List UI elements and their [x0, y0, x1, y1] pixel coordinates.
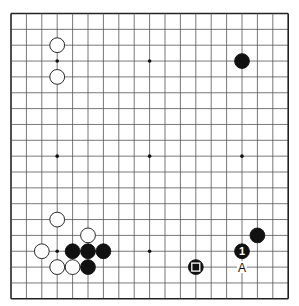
- black-stone: [235, 54, 250, 69]
- star-point: [148, 154, 152, 158]
- star-point: [55, 249, 59, 253]
- stone-body: [81, 244, 96, 259]
- black-stone: [65, 244, 80, 259]
- move-number-label: 1: [239, 245, 245, 257]
- black-stone: 1: [235, 244, 250, 259]
- white-stone: [34, 244, 49, 259]
- point-label-A: A: [238, 261, 246, 275]
- star-point: [55, 154, 59, 158]
- stone-body: [96, 244, 111, 259]
- go-board: A1: [0, 0, 299, 306]
- black-stone: [81, 244, 96, 259]
- black-stone: [188, 260, 203, 275]
- stone-body: [34, 244, 49, 259]
- black-stone: [96, 244, 111, 259]
- star-point: [55, 59, 59, 63]
- stone-body: [65, 244, 80, 259]
- stone-body: [50, 260, 65, 275]
- white-stone: [50, 212, 65, 227]
- stone-body: [188, 260, 203, 275]
- star-point: [148, 249, 152, 253]
- stone-body: [81, 228, 96, 243]
- star-point: [148, 59, 152, 63]
- black-stone: [250, 228, 265, 243]
- stone-body: [235, 54, 250, 69]
- stone-body: [50, 212, 65, 227]
- black-stone: [81, 260, 96, 275]
- white-stone: [50, 38, 65, 53]
- white-stone: [81, 228, 96, 243]
- stone-body: [50, 70, 65, 85]
- stone-body: [81, 260, 96, 275]
- stone-body: [65, 260, 80, 275]
- white-stone: [65, 260, 80, 275]
- stone-body: [50, 38, 65, 53]
- stone-body: [250, 228, 265, 243]
- star-point: [240, 154, 244, 158]
- white-stone: [50, 70, 65, 85]
- white-stone: [50, 260, 65, 275]
